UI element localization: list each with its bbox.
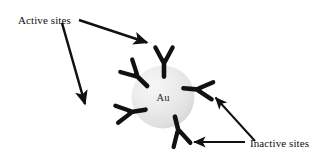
- label-active-sites: Active sites: [18, 14, 71, 26]
- diagram-canvas: Au: [0, 0, 325, 163]
- arrow-inactive-to-right-antibody: [216, 98, 256, 142]
- nanoparticle-label: Au: [157, 92, 171, 103]
- arrow-active-to-top-antibody: [79, 20, 147, 43]
- arrow-active-to-left-antibody: [62, 23, 85, 104]
- label-inactive-sites: Inactive sites: [250, 137, 309, 149]
- nanoparticle-antibody-diagram: Au: [0, 0, 325, 163]
